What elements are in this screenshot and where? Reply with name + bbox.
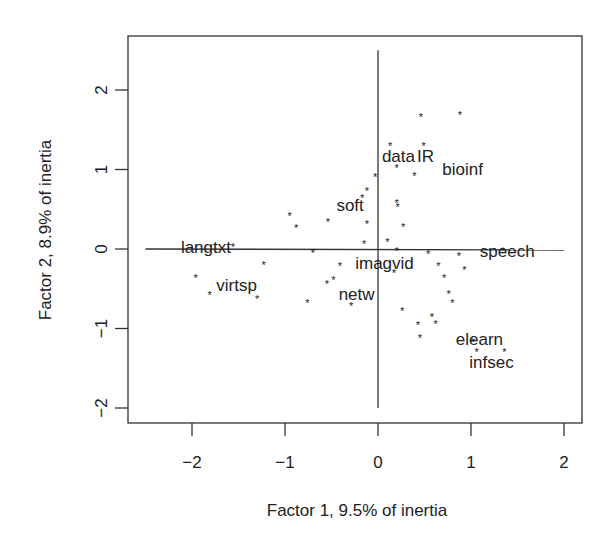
data-point-star-icon: *	[400, 305, 405, 317]
data-point-star-icon: *	[412, 170, 417, 182]
scatter-plot: −2−1012 −2−1012 ************************…	[0, 0, 615, 542]
data-point-star-icon: *	[194, 272, 199, 284]
x-axis: −2−1012	[182, 423, 568, 472]
data-point-star-icon: *	[442, 272, 447, 284]
data-point-star-icon: *	[416, 319, 421, 331]
data-point-star-icon: *	[255, 293, 260, 305]
data-point-star-icon: *	[436, 260, 441, 272]
point-label: elearn	[456, 330, 503, 349]
data-point-star-icon: *	[305, 297, 310, 309]
data-point-star-icon: *	[365, 185, 370, 197]
y-tick-label: −2	[92, 398, 111, 417]
y-tick-label: −1	[92, 319, 111, 338]
data-point-star-icon: *	[385, 236, 390, 248]
data-point-star-icon: *	[365, 218, 370, 230]
point-label: imagvid	[355, 254, 414, 273]
data-point-star-icon: *	[373, 171, 378, 183]
data-point-star-icon: *	[395, 201, 400, 213]
data-point-star-icon: *	[401, 221, 406, 233]
data-point-star-icon: *	[294, 222, 299, 234]
data-points: ****************************************…	[194, 109, 508, 358]
x-tick-label: −1	[275, 453, 294, 472]
y-tick-label: 0	[92, 244, 111, 253]
point-label: netw	[339, 285, 376, 304]
x-tick-label: −2	[182, 453, 201, 472]
point-label: bioinf	[442, 160, 483, 179]
y-tick-label: 2	[92, 85, 111, 94]
data-point-star-icon: *	[419, 111, 424, 123]
data-point-star-icon: *	[331, 274, 336, 286]
point-label: speech	[480, 242, 535, 261]
data-point-star-icon: *	[426, 248, 431, 260]
data-point-star-icon: *	[231, 241, 236, 253]
y-axis: −2−1012	[92, 85, 128, 417]
data-point-star-icon: *	[311, 247, 316, 259]
data-point-star-icon: *	[457, 250, 462, 262]
point-label: infsec	[469, 353, 514, 372]
data-point-star-icon: *	[458, 109, 463, 121]
point-labels: dataIRbioinfsoftlangtxtspeechimagvidvirt…	[181, 147, 535, 372]
data-point-star-icon: *	[362, 238, 367, 250]
data-point-star-icon: *	[462, 264, 467, 276]
data-point-star-icon: *	[434, 318, 439, 330]
data-point-star-icon: *	[450, 297, 455, 309]
data-point-star-icon: *	[288, 210, 293, 222]
data-point-star-icon: *	[338, 260, 343, 272]
y-tick-label: 1	[92, 165, 111, 174]
data-point-star-icon: *	[208, 289, 213, 301]
x-tick-label: 0	[373, 453, 382, 472]
data-point-star-icon: *	[325, 278, 330, 290]
plot-frame	[128, 36, 582, 423]
data-point-star-icon: *	[418, 332, 423, 344]
x-tick-label: 2	[559, 453, 568, 472]
point-label: langtxt	[181, 238, 231, 257]
point-label: virtsp	[216, 276, 257, 295]
x-tick-label: 1	[466, 453, 475, 472]
point-label: data	[382, 147, 416, 166]
data-point-star-icon: *	[261, 259, 266, 271]
data-point-star-icon: *	[326, 216, 331, 228]
point-label: soft	[336, 196, 364, 215]
x-axis-title: Factor 1, 9.5% of inertia	[267, 501, 448, 520]
y-axis-title: Factor 2, 8.9% of inertia	[36, 139, 55, 320]
point-label: IR	[417, 147, 434, 166]
